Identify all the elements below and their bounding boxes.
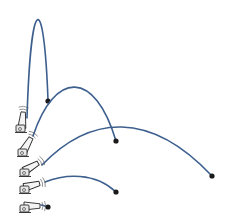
trajectory-curve bbox=[33, 87, 116, 141]
cannon-icon bbox=[19, 201, 46, 213]
cannon-icon bbox=[17, 130, 38, 156]
cannon-icon bbox=[19, 156, 46, 177]
projectile-landing-dot bbox=[209, 173, 214, 178]
launch-group bbox=[15, 20, 51, 133]
launch-group bbox=[17, 87, 119, 156]
cannon-icon bbox=[15, 106, 29, 133]
launch-group bbox=[19, 201, 51, 213]
trajectory-curve bbox=[45, 176, 116, 192]
cannon-icon bbox=[19, 177, 46, 193]
trajectory-curve bbox=[42, 127, 212, 176]
projectile-landing-dot bbox=[45, 204, 50, 209]
launch-group bbox=[19, 127, 215, 179]
diagram-canvas bbox=[0, 0, 225, 224]
trajectory-curve bbox=[27, 20, 48, 118]
projectile-landing-dot bbox=[113, 189, 118, 194]
launch-group bbox=[19, 176, 119, 194]
projectile-diagram: Projectile trajectories fired from a can… bbox=[0, 0, 225, 224]
projectile-landing-dot bbox=[113, 138, 118, 143]
